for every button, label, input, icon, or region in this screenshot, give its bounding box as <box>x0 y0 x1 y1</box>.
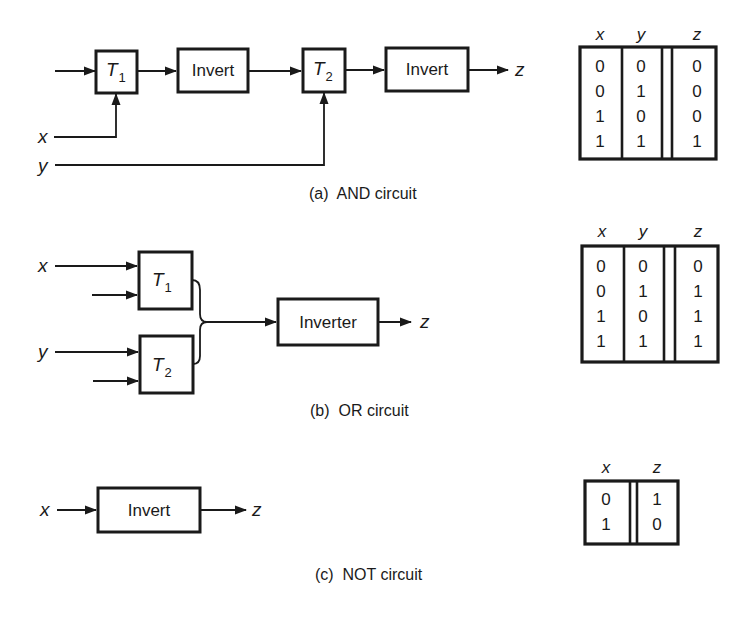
svg-text:0: 0 <box>692 107 701 126</box>
output-label-z: z <box>251 499 262 520</box>
output-label-z: z <box>514 59 525 80</box>
svg-text:0: 0 <box>596 282 605 301</box>
svg-text:0: 0 <box>636 107 645 126</box>
tt-header: z <box>652 458 662 477</box>
tt-row: 1 1 1 <box>596 332 702 351</box>
input-label-x: x <box>39 499 51 520</box>
input-label-y: y <box>36 341 49 362</box>
svg-text:1: 1 <box>693 332 702 351</box>
svg-text:0: 0 <box>601 490 610 509</box>
block-invert-1: Invert <box>178 49 248 92</box>
svg-text:0: 0 <box>595 57 604 76</box>
tt-row: 1 0 <box>601 515 661 534</box>
block-invert-1-label: Invert <box>192 61 235 80</box>
svg-text:1: 1 <box>595 132 604 151</box>
truth-table-or: x y z 0 0 0 0 1 1 1 0 1 1 <box>582 222 718 362</box>
svg-text:1: 1 <box>596 307 605 326</box>
svg-text:0: 0 <box>596 257 605 276</box>
output-label-z: z <box>419 311 430 332</box>
tt-row: 0 1 0 <box>595 82 701 101</box>
svg-text:0: 0 <box>652 515 661 534</box>
svg-text:0: 0 <box>692 82 701 101</box>
block-t2: T2 <box>303 49 345 92</box>
panel-not-circuit: x Invert z (c) NOT circuit x z 0 1 1 0 <box>39 458 678 583</box>
svg-text:0: 0 <box>692 57 701 76</box>
input-label-y: y <box>36 155 49 176</box>
caption-and-circuit: (a) AND circuit <box>309 185 417 202</box>
svg-text:1: 1 <box>692 132 701 151</box>
block-inverter: Inverter <box>278 299 378 345</box>
block-t1: T1 <box>96 51 137 93</box>
block-invert: Invert <box>98 488 200 532</box>
panel-or-circuit: x T1 y T2 Inverter z (b) OR circuit x y … <box>36 222 718 419</box>
svg-text:1: 1 <box>636 82 645 101</box>
block-t2: T2 <box>140 336 193 393</box>
tt-header: x <box>597 222 607 241</box>
tt-row: 0 1 <box>601 490 661 509</box>
svg-text:1: 1 <box>636 132 645 151</box>
panel-and-circuit: T1 Invert T2 Invert z x y (a) AND circui… <box>36 25 716 202</box>
block-invert-2-label: Invert <box>406 60 449 79</box>
tt-row: 1 1 1 <box>595 132 701 151</box>
tt-header: y <box>638 222 649 241</box>
tt-row: 0 0 0 <box>596 257 702 276</box>
svg-text:1: 1 <box>596 332 605 351</box>
truth-table-and: x y z 0 0 0 0 1 0 1 0 0 1 <box>580 25 716 159</box>
tt-header: z <box>693 222 703 241</box>
block-invert-label: Invert <box>128 501 171 520</box>
tt-header: z <box>692 25 702 44</box>
caption-not-circuit: (c) NOT circuit <box>315 566 423 583</box>
tt-row: 0 1 1 <box>596 282 702 301</box>
svg-text:1: 1 <box>693 282 702 301</box>
svg-text:1: 1 <box>638 332 647 351</box>
svg-text:0: 0 <box>595 82 604 101</box>
svg-text:1: 1 <box>693 307 702 326</box>
svg-text:1: 1 <box>595 107 604 126</box>
input-label-x: x <box>37 126 49 147</box>
tt-row: 1 0 1 <box>596 307 702 326</box>
block-t1: T1 <box>139 252 192 309</box>
tt-header: x <box>595 25 605 44</box>
svg-text:1: 1 <box>652 490 661 509</box>
truth-table-not: x z 0 1 1 0 <box>585 458 678 544</box>
svg-text:1: 1 <box>638 282 647 301</box>
svg-text:1: 1 <box>601 515 610 534</box>
block-inverter-label: Inverter <box>299 313 357 332</box>
caption-or-circuit: (b) OR circuit <box>310 402 409 419</box>
block-invert-2: Invert <box>386 48 468 91</box>
logic-circuits-figure: T1 Invert T2 Invert z x y (a) AND circui… <box>0 0 754 620</box>
svg-text:0: 0 <box>693 257 702 276</box>
input-label-x: x <box>37 255 49 276</box>
control-wire-y <box>55 93 324 165</box>
tt-row: 1 0 0 <box>595 107 701 126</box>
tt-row: 0 0 0 <box>595 57 701 76</box>
svg-text:0: 0 <box>638 307 647 326</box>
svg-text:0: 0 <box>638 257 647 276</box>
tt-header: y <box>636 25 647 44</box>
svg-text:0: 0 <box>636 57 645 76</box>
tt-header: x <box>601 458 611 477</box>
control-wire-x <box>54 94 116 137</box>
